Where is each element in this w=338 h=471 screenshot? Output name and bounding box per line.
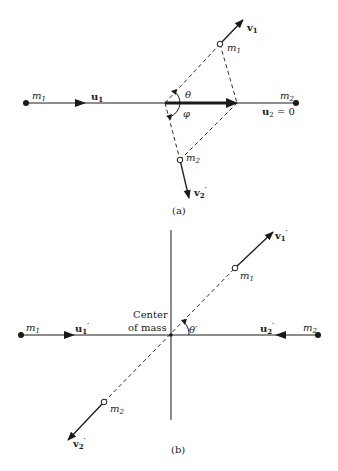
u2-prime-label: u2′ — [260, 321, 274, 336]
m2-initial-label: m2 — [280, 90, 294, 103]
v2-label: v2′ — [193, 185, 207, 200]
u1-prime-arrow-icon — [64, 331, 75, 339]
m1-initial-label: m1 — [32, 90, 46, 103]
theta-prime-label: θ′ — [189, 324, 198, 335]
v2-prime-vector — [68, 402, 104, 440]
theta-label: θ — [185, 89, 191, 100]
m2-final-hollow — [177, 157, 183, 163]
m1-final-label: m1 — [227, 42, 241, 55]
v1-prime-label: v1′ — [274, 228, 288, 243]
v1-vector — [220, 20, 243, 44]
u1-label: u1 — [91, 91, 103, 104]
dashed-v1-direction — [165, 44, 220, 103]
m1-initial-label: m1 — [26, 322, 40, 335]
v2-prime-label: v2′ — [72, 436, 86, 451]
m2-final-hollow — [101, 399, 107, 405]
center-of-mass-label-line1: Center — [133, 309, 168, 320]
panel-a-caption: (a) — [172, 205, 186, 216]
m2-final-label: m2 — [110, 403, 124, 416]
v1-label: v1 — [246, 22, 258, 35]
m1-initial-dot — [23, 100, 29, 106]
panel-b-cm-frame: Center of mass m1 u1′ u2′ m2 θ′ m1 v1′ m… — [18, 228, 321, 455]
phi-label: φ — [183, 108, 190, 119]
panel-b-caption: (b) — [171, 444, 185, 455]
theta-arrowhead-icon — [171, 89, 177, 95]
dashed-v2-direction — [165, 103, 180, 160]
panel-a-lab-frame: m1 u1 m2 u2 = 0 θ φ m1 v1 m2 v2′ (a) — [23, 20, 299, 216]
center-of-mass-label-line2: of mass — [128, 322, 167, 333]
collision-diagram: m1 u1 m2 u2 = 0 θ φ m1 v1 m2 v2′ (a) — [0, 0, 338, 471]
v2-vector — [180, 160, 189, 198]
m2-initial-label: m2 — [303, 322, 317, 335]
u2-prime-arrow-icon — [275, 331, 286, 339]
m2-final-label: m2 — [186, 152, 200, 165]
u1-prime-label: u1′ — [75, 321, 89, 336]
u1-arrow-icon — [75, 99, 86, 107]
m1-final-hollow — [232, 265, 238, 271]
u2-zero-label: u2 = 0 — [262, 106, 295, 119]
v1-prime-vector — [235, 232, 273, 268]
m1-final-hollow — [217, 41, 223, 47]
m1-final-label: m1 — [240, 270, 254, 283]
m1-initial-dot — [18, 332, 24, 338]
